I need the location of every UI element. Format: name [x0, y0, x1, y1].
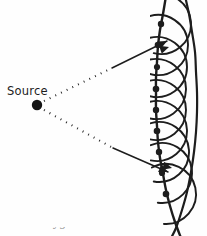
wavelet-center-4 — [153, 86, 160, 93]
wavelet-arc-4 — [147, 59, 186, 119]
source-label: Source — [7, 86, 48, 98]
wavelet-center-6 — [154, 128, 161, 135]
point-source — [32, 100, 42, 110]
clipped-caption-strip: Huygens — [0, 227, 207, 236]
wavelet-center-8 — [159, 170, 165, 176]
wavelet-center-1 — [158, 21, 164, 27]
figure-canvas — [0, 0, 207, 236]
wavelet-center-5 — [153, 107, 159, 113]
upper-ray-dotted — [44, 68, 112, 101]
wavelet-center-9 — [163, 191, 170, 198]
huygens-principle-figure: Source Huygens — [0, 0, 207, 236]
lower-ray-dotted — [44, 110, 113, 148]
wavelet-center-2 — [155, 42, 162, 49]
wavelet-arc-9 — [152, 164, 196, 224]
wavelet-center-7 — [156, 149, 162, 155]
clipped-caption-text: Huygens — [36, 227, 85, 229]
wavelet-center-3 — [154, 64, 160, 70]
